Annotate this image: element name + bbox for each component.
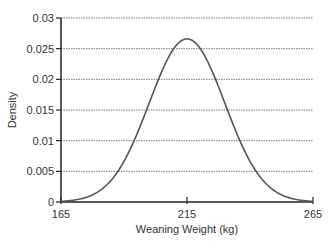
- x-axis-title: Weaning Weight (kg): [136, 223, 238, 235]
- y-tick-label: 0.025: [26, 43, 54, 55]
- x-tick-label: 165: [52, 208, 70, 220]
- x-tick-label: 265: [304, 208, 322, 220]
- gridlines: [61, 18, 313, 171]
- y-axis-title: Density: [6, 91, 18, 128]
- y-tick-label: 0.01: [33, 135, 54, 147]
- density-chart: 00.0050.010.0150.020.0250.03 165215265 W…: [0, 0, 329, 247]
- y-axis-ticks: 00.0050.010.0150.020.0250.03: [26, 12, 61, 208]
- y-tick-label: 0.005: [26, 165, 54, 177]
- y-tick-label: 0.02: [33, 73, 54, 85]
- x-tick-label: 215: [178, 208, 196, 220]
- y-tick-label: 0.015: [26, 104, 54, 116]
- x-axis-ticks: 165215265: [52, 197, 322, 220]
- density-curve: [61, 39, 313, 201]
- y-tick-label: 0.03: [33, 12, 54, 24]
- y-tick-label: 0: [48, 196, 54, 208]
